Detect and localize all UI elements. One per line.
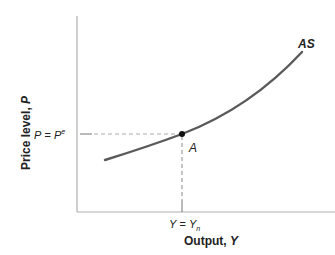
x-axis-title: Output, Y xyxy=(184,234,239,248)
y-axis-title: Price level, P xyxy=(19,95,33,170)
as-diagram: A AS P = Pe Y = Yn Output, Y Price level… xyxy=(0,0,335,255)
point-a xyxy=(179,131,185,137)
p-tick-label: P = Pe xyxy=(34,128,65,141)
point-a-label: A xyxy=(188,141,197,155)
curve-label: AS xyxy=(297,37,315,51)
as-curve xyxy=(105,52,302,160)
y-tick-label: Y = Yn xyxy=(169,218,200,232)
